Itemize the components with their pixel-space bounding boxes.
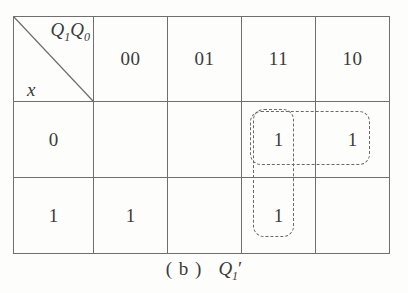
cell-value: 1 bbox=[274, 205, 284, 226]
figure-caption: ( b )Q1′ bbox=[0, 258, 408, 284]
cell-r0-c11: 1 bbox=[242, 102, 316, 178]
column-header-01: 01 bbox=[168, 17, 242, 102]
column-header-label: 00 bbox=[121, 48, 141, 69]
column-header-10: 10 bbox=[316, 17, 390, 102]
column-header-11: 11 bbox=[242, 17, 316, 102]
cell-r0-c00 bbox=[94, 102, 168, 178]
karnaugh-map-figure: Q1Q0 x 00 01 11 10 0 bbox=[0, 0, 408, 293]
column-header-00: 00 bbox=[94, 17, 168, 102]
cell-r0-c01 bbox=[168, 102, 242, 178]
row-header-label: 1 bbox=[49, 205, 59, 226]
row-header-label: 0 bbox=[49, 129, 59, 150]
row-variable-label: x bbox=[27, 79, 35, 101]
caption-expression: Q1′ bbox=[218, 258, 242, 279]
table-row: 1 1 1 bbox=[14, 178, 390, 254]
caption-label: ( b ) bbox=[166, 258, 203, 279]
cell-value: 1 bbox=[348, 129, 358, 150]
axis-stub-cell: Q1Q0 x bbox=[14, 17, 94, 102]
table-row: 0 1 1 bbox=[14, 102, 390, 178]
axis-stub-inner: Q1Q0 x bbox=[14, 17, 93, 101]
column-header-label: 11 bbox=[269, 48, 288, 69]
cell-r1-c11: 1 bbox=[242, 178, 316, 254]
cell-r1-c10 bbox=[316, 178, 390, 254]
cell-r0-c10: 1 bbox=[316, 102, 390, 178]
row-header-0: 0 bbox=[14, 102, 94, 178]
row-header-1: 1 bbox=[14, 178, 94, 254]
column-variable-label: Q1Q0 bbox=[51, 19, 90, 45]
column-header-label: 10 bbox=[343, 48, 363, 69]
column-header-label: 01 bbox=[195, 48, 215, 69]
cell-value: 1 bbox=[274, 129, 284, 150]
cell-r1-c00: 1 bbox=[94, 178, 168, 254]
cell-value: 1 bbox=[126, 205, 136, 226]
cell-r1-c01 bbox=[168, 178, 242, 254]
karnaugh-map-table: Q1Q0 x 00 01 11 10 0 bbox=[13, 16, 390, 254]
table-header-row: Q1Q0 x 00 01 11 10 bbox=[14, 17, 390, 102]
